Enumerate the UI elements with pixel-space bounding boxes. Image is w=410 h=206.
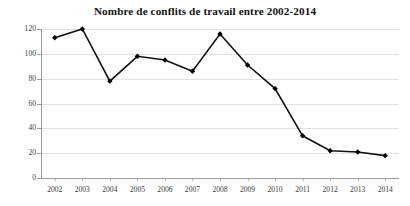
x-tick-mark <box>82 178 83 181</box>
chart-figure: Nombre de conflits de travail entre 2002… <box>0 0 410 206</box>
x-tick-mark <box>165 178 166 181</box>
data-point-marker <box>355 149 360 154</box>
x-tick-mark <box>385 178 386 181</box>
y-tick-mark <box>37 104 41 105</box>
x-tick-mark <box>220 178 221 181</box>
x-tick-mark <box>358 178 359 181</box>
y-tick-mark <box>37 79 41 80</box>
y-axis-tick-label: 120 <box>6 25 36 33</box>
series-line-layer <box>0 0 410 206</box>
y-axis-tick-label: 0 <box>6 174 36 182</box>
data-point-marker <box>162 57 167 62</box>
data-point-marker <box>52 35 57 40</box>
x-tick-mark <box>330 178 331 181</box>
x-tick-mark <box>275 178 276 181</box>
x-tick-mark <box>192 178 193 181</box>
y-tick-mark <box>37 153 41 154</box>
x-axis-tick-label: 2014 <box>365 185 405 194</box>
x-tick-mark <box>248 178 249 181</box>
y-axis-tick-label: 100 <box>6 50 36 58</box>
x-tick-mark <box>110 178 111 181</box>
x-tick-mark <box>137 178 138 181</box>
y-tick-mark <box>37 29 41 30</box>
y-axis-tick-label: 60 <box>6 100 36 108</box>
y-axis-tick-label: 80 <box>6 75 36 83</box>
y-tick-mark <box>37 128 41 129</box>
series-markers <box>52 26 388 158</box>
y-axis-tick-label: 20 <box>6 149 36 157</box>
x-tick-mark <box>303 178 304 181</box>
x-tick-mark <box>55 178 56 181</box>
y-tick-mark <box>37 54 41 55</box>
y-tick-mark <box>37 178 41 179</box>
series-polyline <box>55 29 385 156</box>
y-axis-tick-label: 40 <box>6 124 36 132</box>
data-point-marker <box>383 153 388 158</box>
